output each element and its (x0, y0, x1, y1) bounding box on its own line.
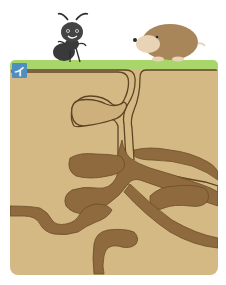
option-label-badge: イ (12, 63, 27, 78)
ant-nest-illustration (0, 0, 226, 285)
mole-character (133, 24, 205, 62)
ant-character (53, 14, 88, 62)
grass-strip (10, 60, 218, 70)
